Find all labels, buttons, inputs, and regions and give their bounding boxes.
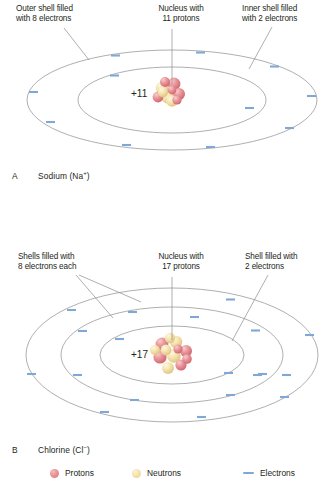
legend-item-protons: Protons (50, 468, 94, 478)
chlorine-leader-shell2 (232, 275, 268, 341)
sodium-name-end: ) (87, 171, 90, 181)
sodium-nucleus-charge: +11 (131, 88, 148, 99)
chlorine-atom-group: +17 (26, 275, 318, 422)
sodium-atom-group: +11 (27, 27, 317, 150)
legend-label-neutrons: Neutrons (147, 468, 181, 478)
chlorine-leader-lines (76, 275, 268, 341)
neutron-sphere-icon (132, 469, 141, 478)
panel-name-sodium: Sodium (Na (38, 171, 83, 181)
chlorine-nucleus (150, 333, 192, 374)
legend-label-electrons: Electrons (260, 468, 295, 478)
sodium-nucleus (153, 77, 185, 107)
sodium-leader-outer (64, 28, 89, 60)
chlorine-leader-shells8-b (79, 275, 141, 302)
panel-label-sodium: ASodium (Na+) (12, 170, 90, 181)
chlorine-name-end: ) (87, 445, 90, 455)
panel-name-chlorine: Chlorine (Cl (38, 445, 83, 455)
callout-sodium-nucleus: Nucleus with 11 protons (135, 4, 227, 25)
callout-sodium-outer-shell: Outer shell filled with 8 electrons (16, 4, 120, 25)
callout-chlorine-shells8: Shells filled with 8 electrons each (18, 252, 122, 273)
figure-legend: Protons Neutrons Electrons (0, 466, 333, 488)
diagram-canvas: +11 (0, 0, 333, 498)
legend-item-neutrons: Neutrons (132, 468, 181, 478)
proton-sphere-icon (50, 469, 59, 478)
electron-dash-icon (243, 472, 254, 474)
panel-label-chlorine: BChlorine (Cl−) (12, 444, 90, 455)
callout-chlorine-nucleus: Nucleus with 17 protons (136, 252, 226, 273)
chlorine-nucleus-charge: +17 (131, 349, 148, 360)
panel-letter-b: B (12, 445, 38, 455)
atom-shell-figure: +11 (0, 0, 333, 498)
panel-letter-a: A (12, 171, 38, 181)
legend-item-electrons: Electrons (243, 468, 295, 478)
legend-label-protons: Protons (65, 468, 94, 478)
callout-chlorine-shell2: Shell filled with 2 electrons (245, 252, 333, 273)
callout-sodium-inner-shell: Inner shell filled with 2 electrons (242, 4, 333, 25)
